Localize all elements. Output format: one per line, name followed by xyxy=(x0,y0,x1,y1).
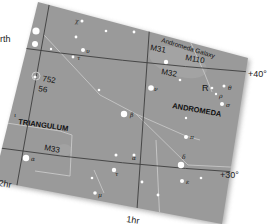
star xyxy=(32,41,38,47)
partial-label: rth xyxy=(0,34,11,44)
star-label-alpha: α xyxy=(132,154,136,161)
star xyxy=(211,87,214,90)
star-label-nu: ν xyxy=(154,85,158,92)
dec-label-40: +40° xyxy=(248,69,267,79)
star xyxy=(91,177,94,180)
star xyxy=(180,179,184,183)
star-label-iota: ι xyxy=(14,111,16,118)
star xyxy=(178,162,184,168)
star xyxy=(121,111,127,117)
star-label-alpha-tri: α xyxy=(31,155,35,162)
star-label-upsilon: υ xyxy=(86,47,90,54)
star xyxy=(93,191,97,195)
star xyxy=(115,154,118,157)
dec-label-30: +30° xyxy=(220,170,239,180)
star-label-beta: β xyxy=(129,111,134,119)
star xyxy=(200,177,203,180)
star-chart: rth xyxy=(0,0,273,224)
star xyxy=(223,85,226,88)
star xyxy=(184,135,188,139)
star-label-rho: ρ xyxy=(218,92,223,100)
star-label-theta: θ xyxy=(228,84,232,91)
ra-label-2hr: 2hr xyxy=(0,178,12,190)
star xyxy=(164,60,168,64)
star xyxy=(215,93,217,95)
star xyxy=(148,85,154,91)
star-label-delta: δ xyxy=(182,153,186,160)
star xyxy=(33,75,36,78)
star xyxy=(75,36,78,39)
star xyxy=(23,155,29,161)
star xyxy=(72,56,75,59)
ra-label-1hr: 1hr xyxy=(126,214,140,224)
star-label-mu: μ xyxy=(98,191,102,199)
star xyxy=(141,181,144,184)
star xyxy=(32,27,39,34)
r-andromedae-label: R xyxy=(202,83,209,93)
star xyxy=(179,79,182,82)
star-label-epsilon: ε xyxy=(186,178,189,185)
star xyxy=(81,20,84,23)
star xyxy=(133,31,136,34)
star xyxy=(81,48,85,52)
star xyxy=(98,89,101,92)
star xyxy=(157,194,160,197)
star xyxy=(220,102,224,106)
star xyxy=(105,30,108,33)
star-label-chi: χ xyxy=(74,17,79,25)
star xyxy=(185,117,187,119)
star xyxy=(50,48,52,50)
